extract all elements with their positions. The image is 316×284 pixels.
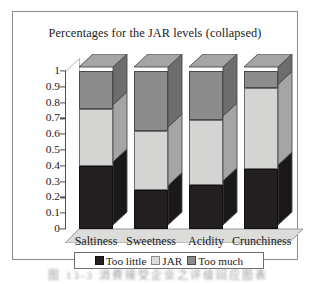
legend-swatch-icon <box>151 256 160 265</box>
legend-item[interactable]: Too much <box>187 255 243 267</box>
bar-segment[interactable] <box>189 185 223 229</box>
y-axis-tick-label: 0.1 <box>32 207 60 218</box>
y-axis-tick-label: 0.6 <box>32 128 60 139</box>
y-axis-tick-label: 0.9 <box>32 81 60 92</box>
y-axis-tick-mark <box>60 197 66 198</box>
y-axis-tick-mark <box>60 134 66 135</box>
y-axis-tick-label: 0.4 <box>32 160 60 171</box>
bar-segment[interactable] <box>134 190 168 230</box>
bar-segment[interactable] <box>244 88 278 169</box>
y-axis-tick-label: 0.5 <box>32 144 60 155</box>
y-axis-tick-mark <box>60 165 66 166</box>
bar-segment[interactable] <box>79 71 113 109</box>
y-axis-tick-mark <box>60 228 66 229</box>
figure-container: Percentages for the JAR levels (collapse… <box>0 0 316 284</box>
y-axis-tick-mark <box>60 149 66 150</box>
y-axis-tick-mark <box>60 70 66 71</box>
y-axis-tick-label: 0.7 <box>32 113 60 124</box>
axis-wall-top <box>65 58 80 72</box>
bar-segment[interactable] <box>244 71 278 88</box>
bar-segment[interactable] <box>79 109 113 166</box>
y-axis-tick-label: 0.8 <box>32 97 60 108</box>
figure-caption: 图 13-3 消费接受企业之评级回应图表 <box>0 266 316 282</box>
legend-label: JAR <box>162 255 182 267</box>
y-axis-tick-label: 0.2 <box>32 192 60 203</box>
bar-segment[interactable] <box>244 169 278 229</box>
x-axis-tick-label: Sweetness <box>122 234 180 249</box>
chart-frame: Percentages for the JAR levels (collapse… <box>12 11 298 260</box>
legend-item[interactable]: JAR <box>151 255 182 267</box>
x-axis-tick-label: Acidity <box>177 234 235 249</box>
legend-label: Too little <box>106 255 147 267</box>
x-axis-tick-label: Saltiness <box>67 234 125 249</box>
y-axis-tick-label: 1 <box>32 65 60 76</box>
x-axis-tick-label: Crunchiness <box>232 234 290 249</box>
y-axis-tick-mark <box>60 213 66 214</box>
y-axis-tick-label: 0.3 <box>32 176 60 187</box>
y-axis-tick-label: 0 <box>32 223 60 234</box>
legend-swatch-icon <box>95 256 104 265</box>
bar-segment[interactable] <box>134 71 168 131</box>
y-axis-tick-mark <box>60 181 66 182</box>
y-axis-tick-mark <box>60 86 66 87</box>
legend-item[interactable]: Too little <box>95 255 147 267</box>
bar-segment[interactable] <box>79 166 113 229</box>
y-axis-tick-mark <box>60 118 66 119</box>
bar-segment[interactable] <box>189 71 223 120</box>
legend-label: Too much <box>198 255 243 267</box>
legend-swatch-icon <box>187 256 196 265</box>
y-axis: 10.90.80.70.60.50.40.30.20.10 <box>27 12 60 284</box>
bar-segment[interactable] <box>134 131 168 189</box>
bar-segment[interactable] <box>189 120 223 185</box>
plot-area <box>65 71 289 229</box>
y-axis-tick-mark <box>60 102 66 103</box>
